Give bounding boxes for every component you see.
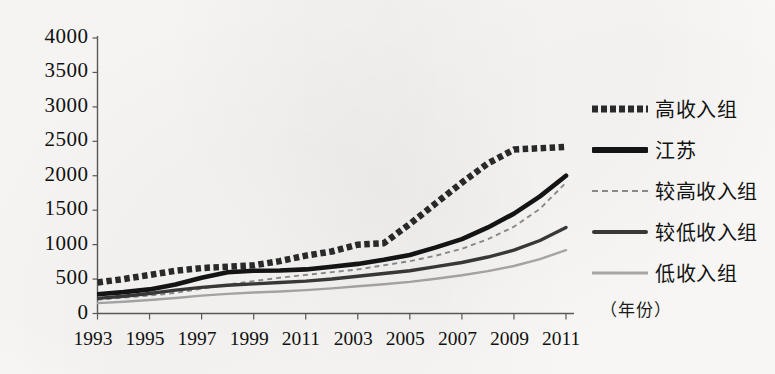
y-tick-label: 1500 xyxy=(19,196,89,221)
y-tick-label: 4000 xyxy=(19,24,89,49)
x-tick-label: 2011 xyxy=(282,328,320,350)
legend-swatch-icon xyxy=(592,225,648,239)
x-tick-label: 2011 xyxy=(542,328,580,350)
legend-item-2[interactable]: 江苏 xyxy=(592,129,772,170)
legend-swatch-icon xyxy=(592,184,648,198)
legend-item-label: 较低收入组 xyxy=(655,217,758,246)
x-tick-label: 2005 xyxy=(386,328,425,350)
y-tick-label: 1000 xyxy=(19,231,89,256)
y-tick-label: 3500 xyxy=(19,58,89,83)
series-line xyxy=(98,176,567,294)
legend-item-1[interactable]: 高收入组 xyxy=(592,88,772,129)
series-lines xyxy=(98,147,567,303)
y-tick-label: 2500 xyxy=(19,127,89,152)
y-tick-label: 0 xyxy=(19,300,89,325)
chart-legend: 高收入组江苏较高收入组较低收入组低收入组 xyxy=(592,88,772,293)
x-axis-title: （年份） xyxy=(600,296,672,321)
legend-item-5[interactable]: 低收入组 xyxy=(592,252,772,293)
x-tick-label: 1999 xyxy=(230,328,269,350)
legend-item-label: 低收入组 xyxy=(655,258,737,287)
x-tick-label: 2007 xyxy=(438,328,477,350)
legend-swatch-icon xyxy=(592,266,648,280)
x-tick-label: 1995 xyxy=(126,328,165,350)
y-tick-marks xyxy=(93,38,98,314)
legend-item-label: 较高收入组 xyxy=(655,176,758,205)
legend-item-label: 高收入组 xyxy=(655,94,737,123)
chart-figure: 05001000150020002500300035004000 1993199… xyxy=(0,0,775,374)
y-tick-label: 500 xyxy=(19,265,89,290)
legend-item-4[interactable]: 较低收入组 xyxy=(592,211,772,252)
x-tick-label: 2009 xyxy=(490,328,529,350)
series-line xyxy=(98,183,567,300)
x-tick-label: 1993 xyxy=(74,328,113,350)
x-tick-marks xyxy=(98,314,567,320)
series-line xyxy=(98,250,567,303)
x-tick-label: 2003 xyxy=(334,328,373,350)
legend-item-3[interactable]: 较高收入组 xyxy=(592,170,772,211)
legend-item-label: 江苏 xyxy=(655,135,696,164)
legend-swatch-icon xyxy=(592,143,648,157)
series-line xyxy=(98,147,567,283)
legend-swatch-icon xyxy=(592,102,648,116)
y-tick-label: 2000 xyxy=(19,162,89,187)
y-tick-label: 3000 xyxy=(19,93,89,118)
x-tick-label: 1997 xyxy=(178,328,217,350)
